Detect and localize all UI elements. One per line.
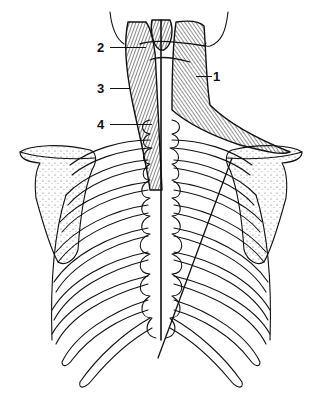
label-1: 1 <box>213 70 220 83</box>
label-2: 2 <box>97 41 104 54</box>
anatomy-figure <box>0 0 322 408</box>
label-3: 3 <box>97 82 104 95</box>
right-scapula <box>226 146 302 264</box>
left-scapula <box>20 146 96 264</box>
label-3-leader <box>110 88 130 89</box>
label-4: 4 <box>97 118 104 131</box>
label-2-leader <box>110 47 146 48</box>
label-1-leader <box>196 76 212 77</box>
label-4-leader <box>110 124 152 125</box>
tension-line <box>158 158 232 358</box>
